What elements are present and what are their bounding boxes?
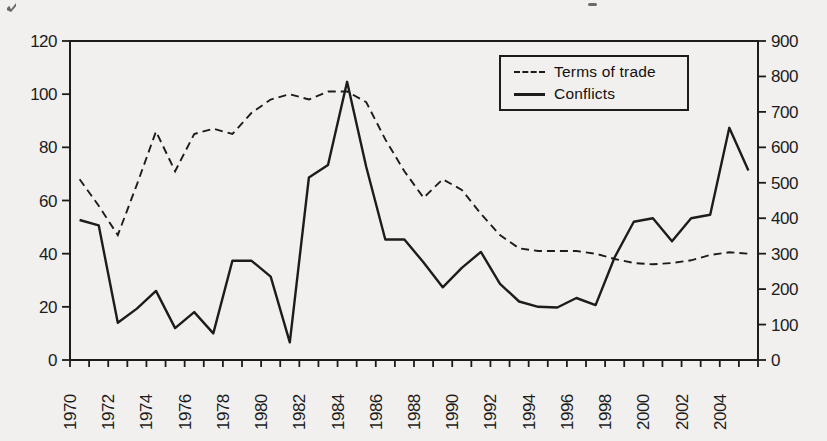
x-axis-label: 1990 xyxy=(443,394,462,430)
y-axis-left-label: 40 xyxy=(39,245,57,264)
y-axis-left-label: 80 xyxy=(39,138,57,157)
x-axis-label: 1982 xyxy=(290,394,309,430)
line-chart-canvas: 0204060801001200100200300400500600700800… xyxy=(0,0,827,441)
y-axis-left-label: 60 xyxy=(39,192,57,211)
scan-speck xyxy=(588,3,597,6)
legend: Terms of trade Conflicts xyxy=(499,55,689,111)
x-axis-label: 1998 xyxy=(596,394,615,430)
legend-label-conflicts: Conflicts xyxy=(554,85,615,103)
y-axis-left-label: 100 xyxy=(30,85,57,104)
x-axis-label: 1992 xyxy=(481,394,500,430)
y-axis-right-label: 0 xyxy=(771,351,780,370)
x-axis-label: 2004 xyxy=(711,394,730,430)
x-axis-label: 1978 xyxy=(214,394,233,430)
x-axis-label: 1996 xyxy=(558,394,577,430)
y-axis-left-label: 120 xyxy=(30,32,57,51)
legend-entry-conflicts: Conflicts xyxy=(514,85,687,103)
x-axis-label: 1994 xyxy=(520,394,539,430)
x-axis-label: 1970 xyxy=(61,394,80,430)
y-axis-right-label: 400 xyxy=(771,209,798,228)
x-axis-label: 1972 xyxy=(99,394,118,430)
y-axis-right-label: 600 xyxy=(771,138,798,157)
x-axis-label: 2000 xyxy=(634,394,653,430)
y-axis-right-label: 800 xyxy=(771,67,798,86)
legend-entry-terms-of-trade: Terms of trade xyxy=(514,63,687,81)
y-axis-right-label: 300 xyxy=(771,245,798,264)
y-axis-right-label: 100 xyxy=(771,316,798,335)
x-axis-label: 1976 xyxy=(176,394,195,430)
x-axis-label: 1986 xyxy=(367,394,386,430)
legend-label-terms-of-trade: Terms of trade xyxy=(554,63,656,81)
dashed-line-sample-icon xyxy=(514,71,545,73)
series-conflicts xyxy=(80,82,749,343)
chart: 0204060801001200100200300400500600700800… xyxy=(0,0,827,441)
x-axis-label: 1980 xyxy=(252,394,271,430)
x-axis-label: 1974 xyxy=(137,394,156,430)
x-axis-label: 2002 xyxy=(673,394,692,430)
solid-line-sample-icon xyxy=(514,93,545,96)
y-axis-right-label: 200 xyxy=(771,280,798,299)
y-axis-left-label: 20 xyxy=(39,298,57,317)
y-axis-right-label: 900 xyxy=(771,32,798,51)
x-axis-label: 1988 xyxy=(405,394,424,430)
y-axis-right-label: 500 xyxy=(771,174,798,193)
series-terms-of-trade xyxy=(80,92,749,265)
x-axis-label: 1984 xyxy=(329,394,348,430)
y-axis-left-label: 0 xyxy=(48,351,57,370)
y-axis-right-label: 700 xyxy=(771,103,798,122)
